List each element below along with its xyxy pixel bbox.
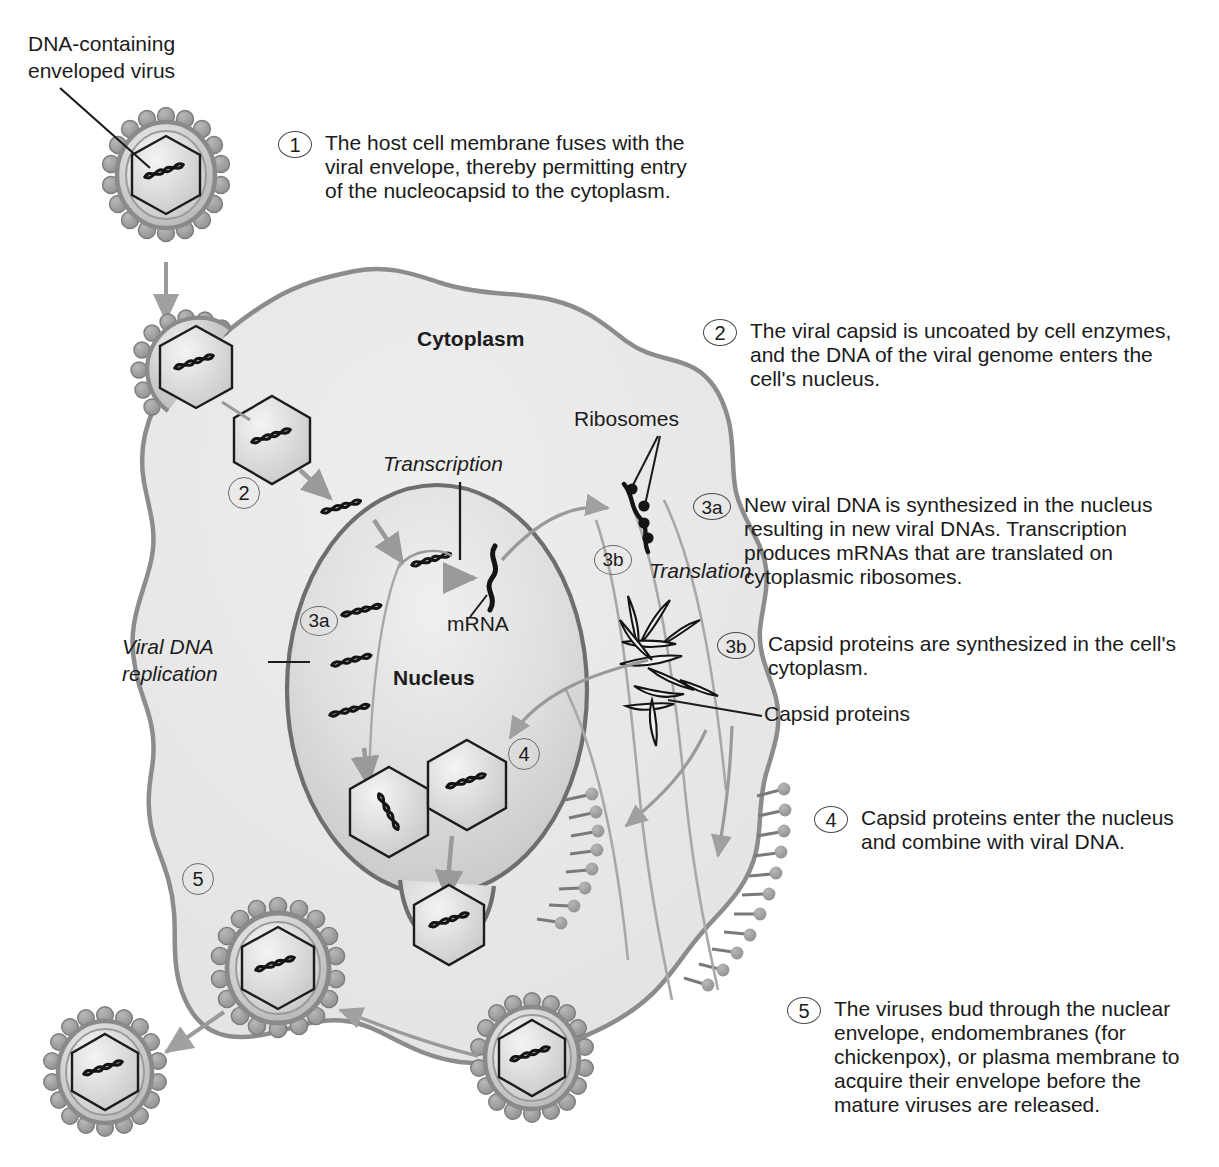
capsid-proteins-label: Capsid proteins <box>764 700 910 727</box>
mrna-label: mRNA <box>447 610 509 637</box>
virus-caption: DNA-containing enveloped virus <box>28 30 175 85</box>
marker-3a: 3a <box>300 606 338 636</box>
virus-particle-budding-membrane <box>471 993 594 1123</box>
ribosomes-label: Ribosomes <box>574 405 679 432</box>
step-2-text: The viral capsid is uncoated by cell enz… <box>750 319 1203 391</box>
step-callout-1: 1 The host cell membrane fuses with the … <box>278 131 708 203</box>
step-1-text: The host cell membrane fuses with the vi… <box>325 131 708 203</box>
transcription-label: Transcription <box>383 450 503 477</box>
marker-2: 2 <box>228 477 260 509</box>
step-4-number: 4 <box>814 806 848 833</box>
cytoplasm-label: Cytoplasm <box>417 325 524 352</box>
step-4-text: Capsid proteins enter the nucleus and co… <box>861 806 1210 854</box>
step-3b-number: 3b <box>717 632 755 659</box>
step-5-text: The viruses bud through the nuclear enve… <box>834 997 1209 1117</box>
step-3a-text: New viral DNA is synthesized in the nucl… <box>744 493 1209 589</box>
virus-particle-extracellular-top <box>103 108 230 242</box>
marker-5: 5 <box>182 863 214 895</box>
viral-dna-replication-label: Viral DNA replication <box>122 633 218 688</box>
step-callout-3b: 3b Capsid proteins are synthesized in th… <box>717 632 1207 680</box>
nucleus-label: Nucleus <box>393 664 475 691</box>
step-2-number: 2 <box>703 319 737 346</box>
step-1-number: 1 <box>278 131 312 158</box>
step-5-number: 5 <box>787 997 821 1024</box>
step-callout-4: 4 Capsid proteins enter the nucleus and … <box>814 806 1210 854</box>
step-3b-text: Capsid proteins are synthesized in the c… <box>768 632 1207 680</box>
marker-3b: 3b <box>594 545 632 575</box>
step-3a-number: 3a <box>693 493 731 520</box>
step-callout-2: 2 The viral capsid is uncoated by cell e… <box>703 319 1203 391</box>
marker-4: 4 <box>508 738 540 770</box>
diagram-canvas: DNA-containing enveloped virus Cytoplasm… <box>0 0 1219 1167</box>
virus-particle-exiting-membrane <box>211 897 344 1037</box>
step-callout-3a: 3a New viral DNA is synthesized in the n… <box>693 493 1209 589</box>
virus-particle-released <box>44 1007 167 1137</box>
step-callout-5: 5 The viruses bud through the nuclear en… <box>787 997 1209 1117</box>
